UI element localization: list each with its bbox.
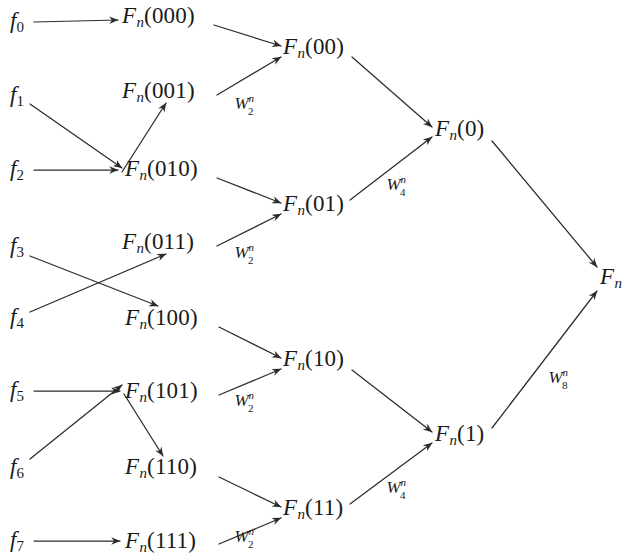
node-subscript: n [298,357,306,373]
node-argument: (100) [147,305,198,330]
node-subscript: n [140,465,148,481]
twiddle-symbol: W [234,392,248,409]
node-symbol: F [600,264,614,289]
twiddle-symbol: W [234,244,248,261]
node-symbol: F [125,528,139,553]
stage1-node-s1_110: Fn(110) [125,455,197,481]
input-label-f3: f3 [10,234,24,261]
twiddle-superscript: n [249,525,255,537]
twiddle-superscript: n [563,366,569,378]
flow-edge: e_f6_101 [30,385,122,459]
input-subscript: 7 [16,538,24,554]
stage2-node-s2_10: Fn(10) [283,347,344,373]
node-symbol: F [125,454,139,479]
input-subscript: 3 [16,244,24,260]
node-argument: (011) [144,229,194,254]
input-label-f0: f0 [10,9,24,36]
flow-edge: e_f1_010 [30,104,122,168]
fft-butterfly-diagram: e_f0_000e_f1_010e_f2_001e_f2_001be_f3_10… [0,0,635,558]
input-label-f4: f4 [10,305,24,332]
input-subscript: 5 [16,388,24,404]
twiddle-subscript: 2 [248,105,254,117]
twiddle-factor-w4_a: Wn4 [386,176,411,193]
stage2-node-s2_11: Fn(11) [283,496,343,522]
twiddle-factor-w8_a: Wn8 [548,369,573,386]
stage1-node-s1_011: Fn(011) [122,230,194,256]
flow-edge: e_10_1 [352,370,432,432]
stage1-node-s1_101: Fn(101) [125,379,198,405]
twiddle-symbol: W [386,479,400,496]
stage1-node-s1_010: Fn(010) [125,157,198,183]
node-subscript: n [298,506,306,522]
flow-edge: e_f0_000 [34,20,118,22]
node-subscript: n [140,316,148,332]
node-symbol: F [122,78,136,103]
twiddle-subscript: 8 [562,379,568,391]
stage2-node-s2_00: Fn(00) [283,35,344,61]
flow-edge: e_100_10 [219,327,281,358]
node-symbol: F [283,191,297,216]
flow-edge: e_1_out [492,291,597,428]
node-symbol: F [125,305,139,330]
node-symbol: F [283,34,297,59]
stage2-node-s2_01: Fn(01) [283,192,344,218]
twiddle-symbol: W [234,95,248,112]
node-subscript: n [450,127,458,143]
signal-flow-edges: e_f0_000e_f1_010e_f2_001e_f2_001be_f3_10… [0,0,635,558]
twiddle-symbol: W [234,528,248,545]
twiddle-factor-w2_c: Wn2 [234,392,259,409]
input-subscript: 0 [16,19,24,35]
twiddle-subscript: 4 [400,186,406,198]
input-subscript: 2 [16,167,24,183]
node-symbol: F [435,116,449,141]
flow-edge: e_00_0 [352,57,432,127]
node-subscript: n [137,240,145,256]
input-label-f2: f2 [10,157,24,184]
node-symbol: F [122,229,136,254]
twiddle-symbol: W [548,369,562,386]
twiddle-subscript: 2 [248,254,254,266]
node-subscript: n [615,275,623,291]
node-argument: (000) [144,3,195,28]
node-argument: (010) [147,156,198,181]
twiddle-symbol: W [386,176,400,193]
node-argument: (01) [305,191,344,216]
node-argument: (110) [147,454,197,479]
node-argument: (0) [457,116,484,141]
twiddle-subscript: 4 [400,489,406,501]
flow-edge: e_000_00 [214,25,281,46]
twiddle-superscript: n [249,389,255,401]
output-node-final: Fn [600,265,622,291]
flow-edge: e_0_out [492,141,597,267]
flow-edge: e_f3_100 [30,256,158,306]
node-subscript: n [140,167,148,183]
node-subscript: n [140,389,148,405]
flow-edge: e_f4_011 [30,254,166,312]
node-argument: (111) [147,528,196,553]
node-symbol: F [435,421,449,446]
input-label-f5: f5 [10,378,24,405]
twiddle-factor-w2_d: Wn2 [234,528,259,545]
node-subscript: n [137,89,145,105]
twiddle-superscript: n [401,476,407,488]
input-subscript: 4 [16,315,24,331]
node-symbol: F [125,378,139,403]
node-subscript: n [450,432,458,448]
node-subscript: n [140,539,148,555]
twiddle-subscript: 2 [248,402,254,414]
node-argument: (1) [457,421,484,446]
stage3-node-s3_1: Fn(1) [435,422,484,448]
node-argument: (00) [305,34,344,59]
twiddle-factor-w2_b: Wn2 [234,244,259,261]
node-subscript: n [137,14,145,30]
node-argument: (101) [147,378,198,403]
node-argument: (10) [305,346,344,371]
node-argument: (001) [144,78,195,103]
input-subscript: 1 [16,93,24,109]
node-subscript: n [298,202,306,218]
node-subscript: n [298,45,306,61]
flow-edge: e_110_11 [219,477,281,507]
node-argument: (11) [305,495,343,520]
stage1-node-s1_001: Fn(001) [122,79,195,105]
twiddle-superscript: n [249,241,255,253]
